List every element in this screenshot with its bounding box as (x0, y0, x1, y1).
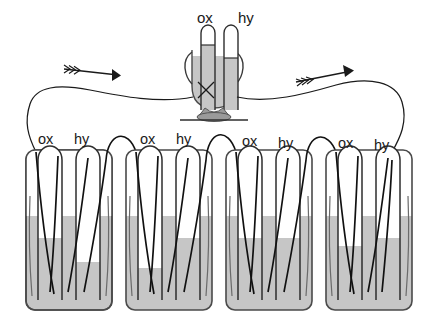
cell-3-label-ox: ox (242, 133, 258, 149)
cell-2-label-hy: hy (176, 131, 192, 147)
current-arrow-left (64, 65, 121, 81)
cell-1-label-hy: hy (74, 131, 90, 147)
cell-2-label-ox: ox (140, 131, 156, 147)
cell-1-label-ox: ox (38, 131, 54, 147)
top-voltameter: ox hy (180, 9, 254, 122)
cell-2-tube-ox-contents (136, 146, 164, 318)
cell-4: ox hy (326, 135, 412, 318)
cell-3-tube-ox-contents (236, 146, 264, 318)
cell-4-label-ox: ox (338, 135, 354, 151)
electrolysis-series-figure: ox hy (0, 0, 428, 336)
cell-1: ox hy (26, 131, 112, 322)
top-label-ox: ox (197, 9, 213, 26)
cell-4-label-hy: hy (374, 137, 390, 153)
top-bowl-flare-left (185, 52, 192, 84)
cell-3-label-hy: hy (278, 135, 294, 151)
top-label-hy: hy (238, 9, 254, 26)
cell-4-tube-ox-contents (336, 146, 364, 318)
cell-3: ox hy (226, 133, 312, 318)
figure-canvas: ox hy (0, 0, 428, 336)
cell-2: ox hy (126, 131, 212, 318)
cell-1-tube-ox-contents (36, 146, 64, 318)
